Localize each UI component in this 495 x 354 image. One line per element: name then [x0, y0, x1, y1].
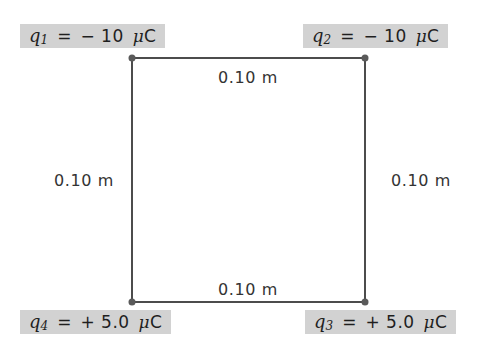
unit-letter-q2: C — [427, 26, 439, 46]
charge-value-q1: − 10 — [80, 24, 123, 48]
square-edge-bottom — [131, 301, 366, 303]
charge-equals-q1: = — [57, 24, 71, 48]
charge-equals-q3: = — [342, 310, 356, 334]
mu-glyph-q4: μ — [139, 312, 150, 332]
unit-letter-q1: C — [144, 26, 156, 46]
square-edge-left — [131, 57, 133, 303]
charge-label-q3: q3 = + 5.0 μC — [305, 310, 456, 334]
charge-value-q4: + 5.0 — [80, 310, 129, 334]
charge-point-q2 — [362, 55, 369, 62]
mu-glyph-q2: μ — [416, 26, 427, 46]
charge-subscript-q4: 4 — [41, 314, 49, 338]
side-length-label-right: 0.10 m — [391, 171, 451, 190]
charge-unit-q4: μC — [139, 310, 163, 334]
charge-label-q2: q2 = − 10 μC — [303, 24, 448, 48]
charge-value-q2: − 10 — [363, 24, 406, 48]
charge-symbol-q3: q — [314, 310, 326, 334]
charge-symbol-q4: q — [29, 310, 41, 334]
charge-point-q4 — [129, 299, 136, 306]
charge-symbol-q1: q — [29, 24, 41, 48]
charge-point-q3 — [362, 299, 369, 306]
side-length-label-left: 0.10 m — [54, 171, 114, 190]
unit-letter-q3: C — [435, 312, 447, 332]
charge-point-q1 — [129, 55, 136, 62]
charge-label-q1: q1 = − 10 μC — [20, 24, 165, 48]
charge-equals-q4: = — [57, 310, 71, 334]
side-length-label-bottom: 0.10 m — [218, 280, 278, 299]
charge-unit-q3: μC — [424, 310, 448, 334]
charge-label-q4: q4 = + 5.0 μC — [20, 310, 171, 334]
charge-unit-q2: μC — [416, 24, 440, 48]
side-length-label-top: 0.10 m — [218, 68, 278, 87]
unit-letter-q4: C — [150, 312, 162, 332]
charge-equals-q2: = — [340, 24, 354, 48]
charge-symbol-q2: q — [312, 24, 324, 48]
charge-subscript-q2: 2 — [324, 28, 332, 52]
charge-value-q3: + 5.0 — [365, 310, 414, 334]
charge-subscript-q1: 1 — [41, 28, 49, 52]
charge-subscript-q3: 3 — [326, 314, 334, 338]
charge-unit-q1: μC — [133, 24, 157, 48]
mu-glyph-q1: μ — [133, 26, 144, 46]
square-edge-right — [364, 57, 366, 303]
mu-glyph-q3: μ — [424, 312, 435, 332]
square-edge-top — [131, 57, 366, 59]
charge-square-figure: 0.10 m 0.10 m 0.10 m 0.10 m q1 = − 10 μC… — [0, 0, 495, 354]
